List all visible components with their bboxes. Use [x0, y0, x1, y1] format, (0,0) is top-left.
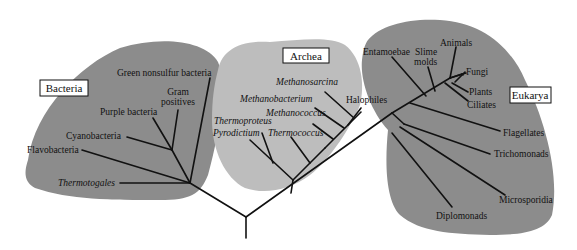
phylogenetic-tree: Bacteria Archea Eukarya Green nonsulfur … [0, 0, 577, 250]
taxon-label: Ciliates [467, 100, 496, 110]
taxon-label: Thermotogales [58, 178, 115, 188]
taxon-label: Methanococcus [265, 108, 326, 118]
bacteria-stem [190, 183, 246, 217]
taxon-label: Green nonsulfur bacteria [117, 68, 212, 78]
taxon-label: positives [161, 97, 195, 107]
taxon-label: Halophiles [346, 95, 387, 105]
bacteria-domain-box: Bacteria [40, 80, 88, 96]
taxon-label: molds [414, 57, 438, 67]
taxon-label: Thermococcus [268, 128, 324, 138]
taxon-label: Purple bacteria [100, 107, 158, 117]
taxon-label: Entamoebae [363, 47, 410, 57]
taxon-label: Methanobacterium [239, 94, 312, 104]
taxon-label: Plants [469, 87, 493, 97]
taxon-label: Gram [167, 87, 189, 97]
taxon-label: Fungi [466, 67, 489, 77]
taxon-label: Trichomonads [494, 149, 549, 159]
bacteria-region [26, 41, 223, 200]
eukarya-domain-label: Eukarya [512, 89, 549, 101]
taxon-label: Thermoproteus [214, 116, 272, 126]
taxon-label: Methanosarcina [275, 77, 338, 87]
eukarya-domain-box: Eukarya [510, 87, 551, 103]
archaea-domain-box: Archea [283, 48, 329, 63]
archaea-domain-label: Archea [290, 50, 322, 62]
taxon-label: Cyanobacteria [66, 131, 122, 141]
taxon-label: Microsporidia [499, 195, 554, 205]
taxon-label: Flagellates [503, 128, 544, 138]
taxon-label: Diplomonads [436, 211, 487, 221]
taxon-label: Animals [440, 38, 472, 48]
taxon-label: Slime [415, 47, 437, 57]
taxon-label: Pyrodictium [212, 128, 260, 138]
taxon-label: Flavobacteria [27, 145, 79, 155]
bacteria-domain-label: Bacteria [46, 82, 83, 94]
